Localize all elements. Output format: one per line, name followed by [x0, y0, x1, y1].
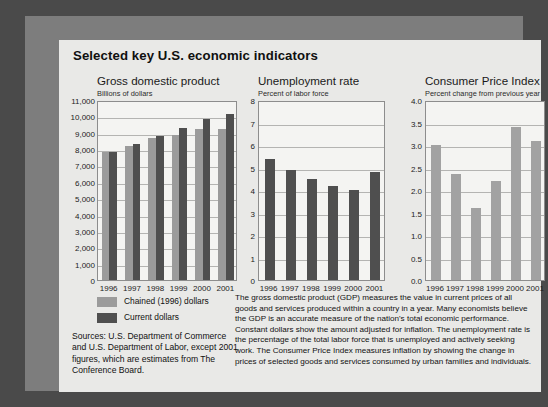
y-axis-tick-label: 0 — [59, 277, 95, 286]
y-axis-tick-label: 8 — [235, 97, 255, 106]
gridline — [98, 233, 236, 234]
gridline — [426, 260, 544, 261]
bar — [179, 128, 187, 280]
bar — [451, 174, 461, 280]
gridline — [426, 192, 544, 193]
bar — [203, 119, 211, 281]
gridline — [98, 249, 236, 250]
gridline — [259, 192, 384, 193]
gridline — [426, 147, 544, 148]
description-text: The gross domestic product (GDP) measure… — [235, 293, 535, 367]
y-axis-tick-label: 3,000 — [59, 227, 95, 236]
y-axis-tick-label: 4 — [235, 187, 255, 196]
bar — [431, 145, 441, 280]
bar — [511, 127, 521, 280]
gridline — [426, 125, 544, 126]
x-axis-tick-label: 2001 — [366, 284, 384, 293]
y-axis-tick-label: 1.5 — [397, 209, 422, 218]
y-axis-tick-label: 7 — [235, 119, 255, 128]
y-axis-tick-label: 3.0 — [397, 142, 422, 151]
x-axis-tick-label: 1998 — [466, 284, 484, 293]
x-axis-tick-label: 1999 — [170, 284, 188, 293]
bar — [148, 138, 156, 280]
y-axis-tick-label: 1 — [235, 254, 255, 263]
background-mat: Selected key U.S. economic indicators Gr… — [0, 0, 548, 407]
y-axis-tick-label: 5,000 — [59, 195, 95, 204]
bar — [370, 172, 380, 280]
bar — [307, 179, 317, 280]
bar — [133, 144, 141, 280]
x-axis-tick-label: 1996 — [100, 284, 118, 293]
bar — [195, 129, 203, 280]
x-axis-tick-label: 1997 — [123, 284, 141, 293]
gridline — [98, 217, 236, 218]
bar — [265, 159, 275, 281]
y-axis-tick-label: 8,000 — [59, 146, 95, 155]
y-axis-tick-label: 7,000 — [59, 162, 95, 171]
gridline — [426, 215, 544, 216]
bar — [172, 135, 180, 280]
legend-label: Chained (1996) dollars — [124, 296, 209, 306]
chart-title-cpi: Consumer Price Index — [425, 74, 540, 87]
y-axis-tick-label: 2 — [235, 232, 255, 241]
y-axis-tick-label: 4,000 — [59, 211, 95, 220]
legend-swatch — [97, 297, 117, 307]
bar — [125, 146, 133, 280]
x-axis-tick-label: 1998 — [302, 284, 320, 293]
x-axis-tick-label: 1999 — [486, 284, 504, 293]
bar — [156, 136, 164, 280]
x-axis-tick-label: 1996 — [260, 284, 278, 293]
bar — [218, 129, 226, 280]
infographic-panel: Selected key U.S. economic indicators Gr… — [59, 40, 541, 392]
y-axis-tick-label: 1.0 — [397, 232, 422, 241]
gridline — [426, 237, 544, 238]
sources-note: Sources: U.S. Department of Commerce and… — [72, 331, 242, 377]
y-axis-tick-label: 2,000 — [59, 244, 95, 253]
y-axis-tick-label: 10,000 — [59, 113, 95, 122]
y-axis-tick-label: 6 — [235, 142, 255, 151]
chart-subtitle-unemployment: Percent of labor force — [258, 89, 329, 98]
legend-label: Current dollars — [124, 312, 179, 322]
x-axis-tick-label: 2000 — [344, 284, 362, 293]
chart-subtitle-gdp: Billions of dollars — [97, 89, 152, 98]
gridline — [259, 260, 384, 261]
y-axis-tick-label: 5 — [235, 164, 255, 173]
y-axis-tick-label: 3.5 — [397, 119, 422, 128]
y-axis-tick-label: 6,000 — [59, 178, 95, 187]
plot-area-unemployment — [258, 101, 385, 281]
gridline — [259, 147, 384, 148]
x-axis-tick-label: 2001 — [216, 284, 234, 293]
gridline — [98, 135, 236, 136]
bar — [531, 141, 541, 281]
bar — [349, 190, 359, 280]
bar — [226, 114, 234, 280]
x-axis-tick-label: 1996 — [426, 284, 444, 293]
x-axis-tick-label: 1999 — [323, 284, 341, 293]
gridline — [426, 170, 544, 171]
y-axis-tick-label: 4.0 — [397, 97, 422, 106]
bar — [328, 186, 338, 281]
x-axis-tick-label: 2000 — [193, 284, 211, 293]
gridline — [259, 125, 384, 126]
y-axis-tick-label: 2.5 — [397, 164, 422, 173]
plot-area-cpi — [425, 101, 545, 281]
page-title: Selected key U.S. economic indicators — [73, 48, 318, 63]
infographic-frame: Selected key U.S. economic indicators Gr… — [25, 16, 523, 391]
gridline — [98, 167, 236, 168]
x-axis-tick-label: 1997 — [446, 284, 464, 293]
bar — [109, 152, 117, 280]
gridline — [98, 266, 236, 267]
x-axis-tick-label: 1998 — [146, 284, 164, 293]
y-axis-tick-label: 3 — [235, 209, 255, 218]
gridline — [98, 151, 236, 152]
gridline — [98, 200, 236, 201]
gridline — [98, 118, 236, 119]
bar — [102, 152, 110, 280]
chart-title-unemployment: Unemployment rate — [258, 74, 359, 87]
x-axis-tick-label: 2001 — [526, 284, 544, 293]
legend-swatch — [97, 313, 117, 323]
bar — [491, 181, 501, 280]
plot-area-gdp — [97, 101, 237, 281]
x-axis-tick-label: 1997 — [281, 284, 299, 293]
y-axis-tick-label: 11,000 — [59, 97, 95, 106]
